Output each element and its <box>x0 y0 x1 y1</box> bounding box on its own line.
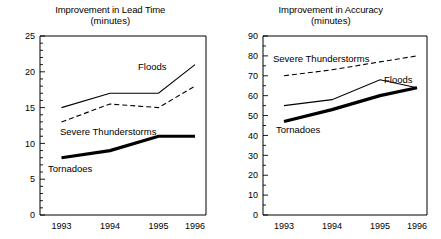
series-line-severe-thunderstorms-lead-time <box>62 86 196 122</box>
y-tick-label-right-70: 70 <box>247 71 257 81</box>
y-tick-label-right-10: 10 <box>247 190 257 200</box>
series-line-floods-lead-time <box>62 65 196 108</box>
series-line-tornadoes-lead-time <box>62 136 196 157</box>
y-tick-label-right-90: 90 <box>247 31 257 41</box>
y-tick-label-right-20: 20 <box>247 170 257 180</box>
x-tick-label-left-1994: 1994 <box>100 221 120 231</box>
series-annotation-severe-thunderstorms-lead-time: Severe Thunderstorms <box>60 126 157 137</box>
y-tick-label-right-80: 80 <box>247 51 257 61</box>
y-tick-label-right-60: 60 <box>247 91 257 101</box>
series-line-tornadoes-accuracy <box>284 88 417 122</box>
y-ticks-left <box>40 36 45 215</box>
plot-area-lead-time: 0 5 10 15 20 25 1993 1994 1995 1996 Floo… <box>0 0 221 239</box>
y-tick-label-left-5: 5 <box>30 174 35 184</box>
series-annotation-tornadoes-lead-time: Tornadoes <box>48 163 93 174</box>
x-tick-label-left-1993: 1993 <box>51 221 71 231</box>
x-tick-label-left-1996: 1996 <box>185 221 205 231</box>
y-tick-label-left-10: 10 <box>25 139 35 149</box>
y-tick-label-left-15: 15 <box>25 103 35 113</box>
y-tick-label-right-40: 40 <box>247 131 257 141</box>
two-panel-line-chart-figure: Improvement in Lead Time (minutes) <box>0 0 441 239</box>
series-annotation-floods-accuracy: Floods <box>384 74 413 85</box>
x-tick-label-right-1994: 1994 <box>321 221 341 231</box>
x-tick-label-right-1995: 1995 <box>369 221 389 231</box>
series-annotation-severe-thunderstorms-accuracy: Severe Thunderstorms <box>273 53 370 64</box>
plot-area-accuracy: 0 10 20 30 40 50 60 70 80 90 1993 1994 1… <box>221 0 441 239</box>
y-tick-label-right-0: 0 <box>252 210 257 220</box>
x-tick-label-right-1993: 1993 <box>273 221 293 231</box>
x-tick-label-right-1996: 1996 <box>406 221 426 231</box>
y-tick-label-right-30: 30 <box>247 151 257 161</box>
y-tick-label-left-0: 0 <box>30 210 35 220</box>
panel-accuracy: Improvement in Accuracy (minutes) <box>221 0 441 239</box>
y-ticks-right <box>263 36 268 215</box>
x-tick-label-left-1995: 1995 <box>148 221 168 231</box>
y-tick-label-right-50: 50 <box>247 111 257 121</box>
series-annotation-tornadoes-accuracy: Tornadoes <box>276 124 321 135</box>
y-tick-label-left-25: 25 <box>25 31 35 41</box>
series-annotation-floods-lead-time: Floods <box>138 61 167 72</box>
panel-lead-time: Improvement in Lead Time (minutes) <box>0 0 221 239</box>
y-tick-label-left-20: 20 <box>25 67 35 77</box>
